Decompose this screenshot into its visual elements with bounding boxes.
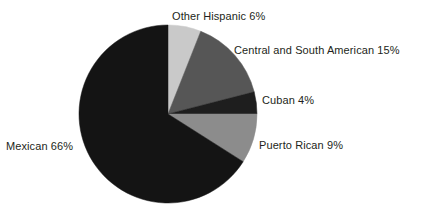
pie-label-puerto-rican: Puerto Rican 9% [259, 139, 343, 152]
pie-label-central-and-south-american: Central and South American 15% [234, 44, 400, 57]
pie-label-mexican: Mexican 66% [6, 140, 73, 153]
pie-label-cuban: Cuban 4% [262, 94, 314, 107]
pie-chart-figure: Other Hispanic 6% Central and South Amer… [0, 0, 421, 223]
pie-slice-group [79, 25, 257, 203]
pie-label-other-hispanic: Other Hispanic 6% [172, 10, 265, 23]
pie-chart-svg [0, 0, 421, 223]
